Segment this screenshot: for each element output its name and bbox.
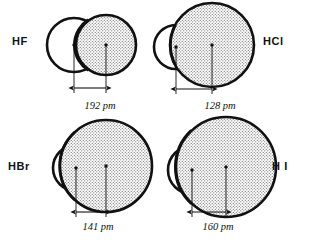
molecule-label-hi: H I [272, 160, 288, 172]
bond-length-label-hbr: 141 pm [58, 221, 138, 232]
molecule-hf [47, 15, 136, 93]
molecule-label-hcl: HCl [263, 35, 284, 47]
bond-length-label-hf: 192 pm [60, 100, 140, 111]
molecule-hcl [154, 3, 254, 94]
molecule-label-hbr: HBr [8, 160, 30, 172]
bond-length-label-hcl: 128 pm [180, 100, 260, 111]
molecule-hi [168, 117, 276, 217]
bond-length-label-hi: 160 pm [178, 221, 258, 232]
molecule-hbr [53, 120, 152, 217]
molecule-label-hf: HF [12, 35, 28, 47]
